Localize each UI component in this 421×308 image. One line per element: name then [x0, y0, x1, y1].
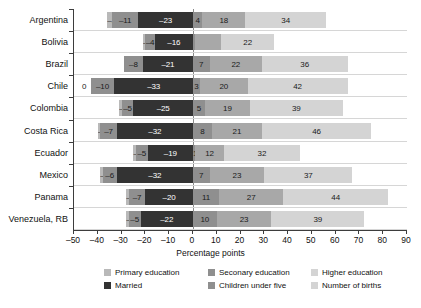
- bar-segment-married: –20: [145, 189, 193, 205]
- category-label-costa-rica: Costa Rica: [0, 126, 68, 136]
- percentage-points-bar-chart: –23–11–241834–16–4–122–21–872236–33–1003…: [0, 0, 421, 308]
- category-tick: [69, 31, 73, 32]
- legend-item-children-under-five[interactable]: Children under five: [208, 279, 286, 292]
- bar-row: –22–5–1102339: [74, 208, 407, 230]
- segment-value-label: –1: [119, 104, 121, 113]
- x-axis-tick: [240, 230, 241, 234]
- segment-value-label-outside: 0: [78, 78, 91, 94]
- legend-swatch-icon: [208, 282, 215, 289]
- bar-segment-children: 23: [217, 211, 272, 227]
- segment-value-label: 12: [195, 148, 224, 157]
- segment-value-label: 36: [262, 60, 348, 69]
- x-axis-tick: [144, 230, 145, 234]
- bar-segment-births: 34: [245, 12, 326, 28]
- x-axis-tick: [192, 230, 193, 234]
- segment-value-label: –10: [91, 82, 115, 91]
- bar-segment-children: 12: [195, 145, 224, 161]
- bar-segment-secondary: –5: [136, 145, 148, 161]
- legend-item-primary-education[interactable]: Primary education: [104, 266, 179, 279]
- x-axis-tick: [382, 230, 383, 234]
- bar-segment-births: 22: [221, 34, 273, 50]
- legend-label: Seconary education: [219, 266, 290, 279]
- segment-value-label: –32: [117, 170, 193, 179]
- segment-value-label: –6: [103, 170, 117, 179]
- segment-value-label: 22: [221, 38, 273, 47]
- bar-segment-married: –22: [141, 211, 193, 227]
- category-label-chile: Chile: [0, 81, 68, 91]
- category-tick: [69, 9, 73, 10]
- stacked-bar: –20–7–1112744: [74, 189, 407, 205]
- bar-segment-primary: –1: [98, 123, 100, 139]
- bar-segment-married: –16: [155, 34, 193, 50]
- segment-value-label: 37: [264, 170, 352, 179]
- bar-segment-secondary: –6: [103, 167, 117, 183]
- category-label-brazil: Brazil: [0, 59, 68, 69]
- x-axis-title: Percentage points: [0, 248, 421, 258]
- x-axis-tick-label: 90: [391, 235, 421, 245]
- legend-label: Number of births: [322, 279, 381, 292]
- segment-value-label: 7: [193, 60, 210, 69]
- segment-value-label: –2: [107, 16, 112, 25]
- bar-segment-births: 39: [271, 211, 364, 227]
- stacked-bar: –22–5–1102339: [74, 211, 407, 227]
- legend-item-seconary-education[interactable]: Seconary education: [208, 266, 290, 279]
- segment-value-label: –11: [112, 16, 138, 25]
- bar-segment-secondary: –4: [145, 34, 155, 50]
- segment-value-label: 21: [212, 126, 262, 135]
- x-axis-tick: [168, 230, 169, 234]
- legend-swatch-icon: [311, 269, 318, 276]
- category-tick: [69, 97, 73, 98]
- category-label-mexico: Mexico: [0, 170, 68, 180]
- segment-value-label: –1: [126, 214, 128, 223]
- bar-segment-children: 21: [212, 123, 262, 139]
- bar-row: –19–5–111232: [74, 142, 407, 164]
- bar-segment-married: –21: [143, 56, 193, 72]
- bar-segment-primary: –1: [133, 145, 135, 161]
- segment-value-label: –23: [138, 16, 193, 25]
- x-axis-tick: [358, 230, 359, 234]
- bar-segment-primary: –1: [100, 167, 102, 183]
- bar-row: –32–7–182146: [74, 120, 407, 142]
- segment-value-label: –25: [133, 104, 192, 113]
- bar-segment-higher: 3: [193, 78, 200, 94]
- stacked-bar: –33–10032042: [74, 78, 407, 94]
- segment-value-label: –32: [117, 126, 193, 135]
- bar-segment-primary: –1: [143, 34, 145, 50]
- segment-value-label: 4: [193, 16, 203, 25]
- segment-value-label: 0: [78, 82, 91, 91]
- segment-value-label: 27: [219, 192, 283, 201]
- bar-segment-married: –33: [114, 78, 192, 94]
- segment-value-label: –33: [114, 82, 192, 91]
- segment-value-label: –1: [133, 148, 135, 157]
- legend-item-number-of-births[interactable]: Number of births: [311, 279, 381, 292]
- bar-segment-married: –25: [133, 100, 192, 116]
- bar-segment-secondary: –8: [124, 56, 143, 72]
- bar-segment-higher: 7: [193, 167, 210, 183]
- segment-value-label: 44: [283, 192, 388, 201]
- segment-value-label: 11: [193, 192, 219, 201]
- category-label-bolivia: Bolivia: [0, 37, 68, 47]
- category-label-colombia: Colombia: [0, 103, 68, 113]
- bar-row: –21–872236: [74, 53, 407, 75]
- plot-area: –23–11–241834–16–4–122–21–872236–33–1003…: [73, 9, 406, 230]
- segment-value-label: –5: [136, 148, 148, 157]
- bar-segment-married: –32: [117, 123, 193, 139]
- chart-legend: Primary educationSeconary educationHighe…: [104, 266, 384, 292]
- segment-value-label: 18: [202, 16, 245, 25]
- legend-item-higher-education[interactable]: Higher education: [311, 266, 382, 279]
- segment-value-label: 5: [193, 104, 205, 113]
- bar-segment-births: 36: [262, 56, 348, 72]
- x-axis-tick: [406, 230, 407, 234]
- segment-value-label: –20: [145, 192, 193, 201]
- bar-segment-primary: –1: [126, 211, 128, 227]
- bar-segment-primary: –1: [126, 189, 128, 205]
- legend-item-married[interactable]: Married: [104, 279, 142, 292]
- segment-value-label: 23: [210, 170, 265, 179]
- bar-segment-births: 37: [264, 167, 352, 183]
- stacked-bar: –19–5–111232: [74, 145, 407, 161]
- bar-segment-married: –32: [117, 167, 193, 183]
- segment-value-label: 23: [217, 214, 272, 223]
- segment-value-label: 39: [250, 104, 343, 113]
- segment-value-label: 42: [248, 82, 348, 91]
- bar-segment-higher: 4: [193, 12, 203, 28]
